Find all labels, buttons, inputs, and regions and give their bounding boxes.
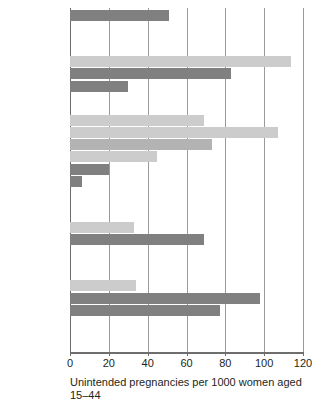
bar-row: 20–24 <box>70 127 303 138</box>
bar <box>70 280 136 291</box>
tick-mark-100 <box>264 352 265 356</box>
gridline-120 <box>303 8 304 352</box>
tick-label-100: 100 <box>244 357 284 369</box>
bar <box>70 127 278 138</box>
bar <box>70 164 109 175</box>
tick-label-20: 20 <box>89 357 129 369</box>
bar <box>70 222 134 233</box>
bar-row: 35–39 <box>70 164 303 175</box>
bar-row: 25–29 <box>70 139 303 150</box>
bar-row: 100–199 <box>70 68 303 79</box>
bar <box>70 176 82 187</box>
bar-row: Hispanic <box>70 305 303 316</box>
tick-mark-60 <box>187 352 188 356</box>
tick-mark-0 <box>70 352 71 356</box>
tick-mark-120 <box>303 352 304 356</box>
bar <box>70 293 260 304</box>
bar <box>70 81 128 92</box>
bar-rows: All women% of poverty<100100–199≥200Age1… <box>70 8 303 352</box>
bar-row: 30–34 <box>70 151 303 162</box>
bar <box>70 305 220 316</box>
bar <box>70 151 157 162</box>
bar-row: Married <box>70 222 303 233</box>
tick-label-60: 60 <box>167 357 207 369</box>
tick-label-80: 80 <box>205 357 245 369</box>
bar <box>70 68 231 79</box>
bar-row: ≥200 <box>70 81 303 92</box>
bar-row: Black <box>70 293 303 304</box>
bar <box>70 234 204 245</box>
bar <box>70 139 212 150</box>
tick-label-40: 40 <box>128 357 168 369</box>
tick-label-0: 0 <box>50 357 90 369</box>
bar-row: 15–19 <box>70 115 303 126</box>
bar-row: <100 <box>70 56 303 67</box>
tick-mark-40 <box>148 352 149 356</box>
plot-area: All women% of poverty<100100–199≥200Age1… <box>70 8 303 352</box>
tick-mark-80 <box>225 352 226 356</box>
tick-mark-20 <box>109 352 110 356</box>
x-axis-title: Unintended pregnancies per 1000 women ag… <box>70 376 320 402</box>
bar-row: ≥40* <box>70 176 303 187</box>
tick-label-120: 120 <box>283 357 323 369</box>
bar-row: All women <box>70 10 303 21</box>
unintended-pregnancy-bar-chart: All women% of poverty<100100–199≥200Age1… <box>0 0 328 406</box>
bar <box>70 115 204 126</box>
bar-row: Unmarried <box>70 234 303 245</box>
bar-row: White <box>70 280 303 291</box>
bar <box>70 10 169 21</box>
bar <box>70 56 291 67</box>
